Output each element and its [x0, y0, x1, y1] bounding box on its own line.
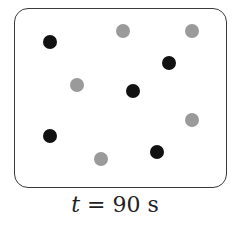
- light-particle: [70, 78, 84, 92]
- light-particle: [94, 152, 108, 166]
- time-caption: t = 90 s: [0, 191, 230, 219]
- light-particle: [185, 24, 199, 38]
- dark-particle: [43, 35, 57, 49]
- dark-particle: [162, 56, 176, 70]
- light-particle: [116, 24, 130, 38]
- time-variable: t: [71, 192, 80, 217]
- light-particle: [185, 113, 199, 127]
- dark-particle: [150, 145, 164, 159]
- time-value: 90 s: [112, 192, 158, 217]
- equals-sign: =: [80, 192, 112, 217]
- dark-particle: [43, 129, 57, 143]
- dark-particle: [126, 84, 140, 98]
